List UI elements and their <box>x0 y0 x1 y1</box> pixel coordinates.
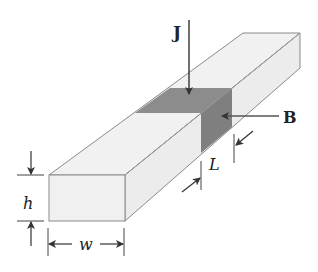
label-j: J <box>171 22 181 42</box>
l-arrow-right <box>236 131 253 145</box>
hall-effect-diagram: J B L h w <box>0 0 318 272</box>
label-h: h <box>23 194 33 213</box>
label-w: w <box>79 235 93 254</box>
bar-front-face <box>49 175 125 221</box>
l-arrow-left <box>182 178 200 192</box>
label-l: L <box>208 155 220 174</box>
label-b: B <box>283 108 297 127</box>
